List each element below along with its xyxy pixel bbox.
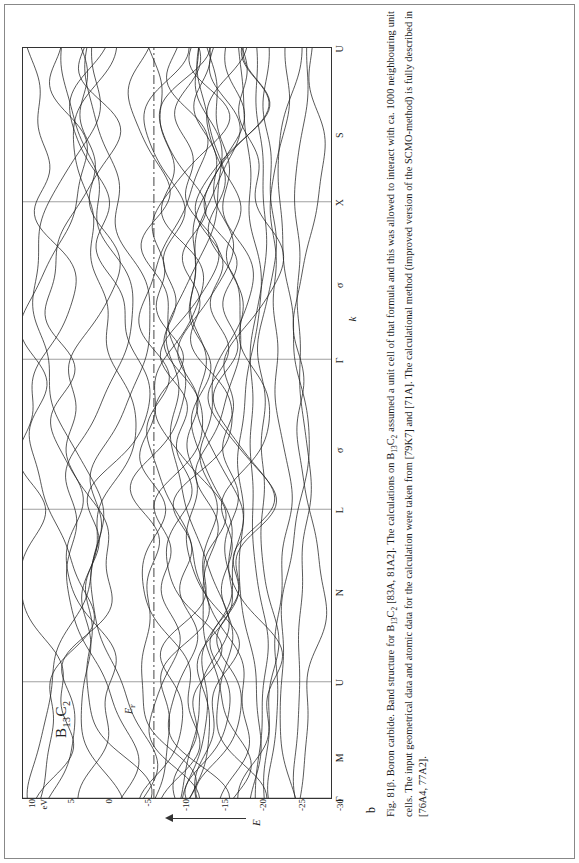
k-point-label-10: U	[334, 45, 345, 52]
band-curve	[70, 48, 152, 798]
energy-tick-neg20: -20	[258, 799, 268, 833]
energy-tick-neg25: -25	[297, 799, 307, 833]
k-point-label-2: U	[334, 679, 345, 686]
band-curve	[85, 48, 158, 798]
energy-unit-label: eV	[39, 799, 49, 833]
caption-text-1e: assumed a unit cell of that formula and …	[385, 112, 396, 434]
k-axis-label: k	[346, 317, 358, 322]
subfigure-letter: b	[364, 807, 379, 813]
fermi-level-label: EF	[123, 704, 137, 714]
energy-tick-neg10: -10	[181, 799, 191, 833]
caption-sub-13-a: 13	[390, 617, 399, 624]
k-point-label-8: X	[334, 199, 345, 206]
k-point-label-3: N	[334, 589, 345, 596]
k-point-label-6: Γ	[334, 357, 345, 363]
k-point-label-9: S	[334, 132, 345, 138]
k-point-label-4: L	[334, 507, 345, 513]
band-curve	[250, 48, 268, 798]
caption-text-1c: [83A, 81A2]. The calculations on B	[385, 453, 396, 607]
rotated-page-content: E 1050-5-10-15-20-25-30eV B13C2 EF ΓMUNL…	[4, 4, 575, 859]
band-curve	[183, 48, 245, 798]
band-curve	[278, 48, 309, 798]
figure-caption: Fig. 81β. Boron carbide. Band structure …	[384, 11, 431, 817]
band-curve	[128, 48, 196, 798]
caption-text-1d: C	[385, 438, 396, 445]
band-structure-figure: E 1050-5-10-15-20-25-30eV B13C2 EF ΓMUNL…	[12, 33, 350, 839]
band-curve	[238, 48, 262, 798]
band-curve	[257, 48, 278, 798]
band-curve	[73, 48, 136, 798]
caption-sub-2-a: 2	[390, 607, 399, 611]
caption-text-1b: C	[385, 610, 396, 617]
band-curve	[178, 48, 240, 798]
band-structure-plot	[23, 48, 331, 798]
k-axis-label-group: k	[346, 47, 360, 799]
k-point-label-5: σ	[334, 448, 345, 453]
caption-text-1a: Boron carbide. Band structure for B	[385, 625, 396, 776]
energy-tick-5: 5	[66, 799, 76, 833]
energy-tick-10: 10	[27, 799, 37, 833]
caption-sub-13-b: 13	[390, 445, 399, 452]
caption-sub-2-b: 2	[390, 435, 399, 439]
band-curve	[293, 48, 326, 798]
band-curve	[61, 48, 139, 798]
caption-figure-number: Fig. 81β.	[385, 779, 396, 817]
band-curve	[200, 48, 254, 798]
figure-page: E 1050-5-10-15-20-25-30eV B13C2 EF ΓMUNL…	[0, 0, 579, 863]
k-point-label-1: M	[334, 753, 345, 762]
band-curve	[189, 48, 240, 798]
k-point-label-7: σ	[334, 283, 345, 288]
energy-tick-neg5: -5	[143, 799, 153, 833]
energy-tick-neg30: -30	[335, 799, 345, 833]
k-point-label-0: Γ	[334, 796, 345, 802]
energy-tick-0: 0	[104, 799, 114, 833]
panel-formula-label: B13C2	[53, 700, 72, 738]
band-curve	[45, 48, 121, 798]
plot-frame: B13C2 EF	[22, 47, 332, 799]
energy-tick-neg15: -15	[220, 799, 230, 833]
